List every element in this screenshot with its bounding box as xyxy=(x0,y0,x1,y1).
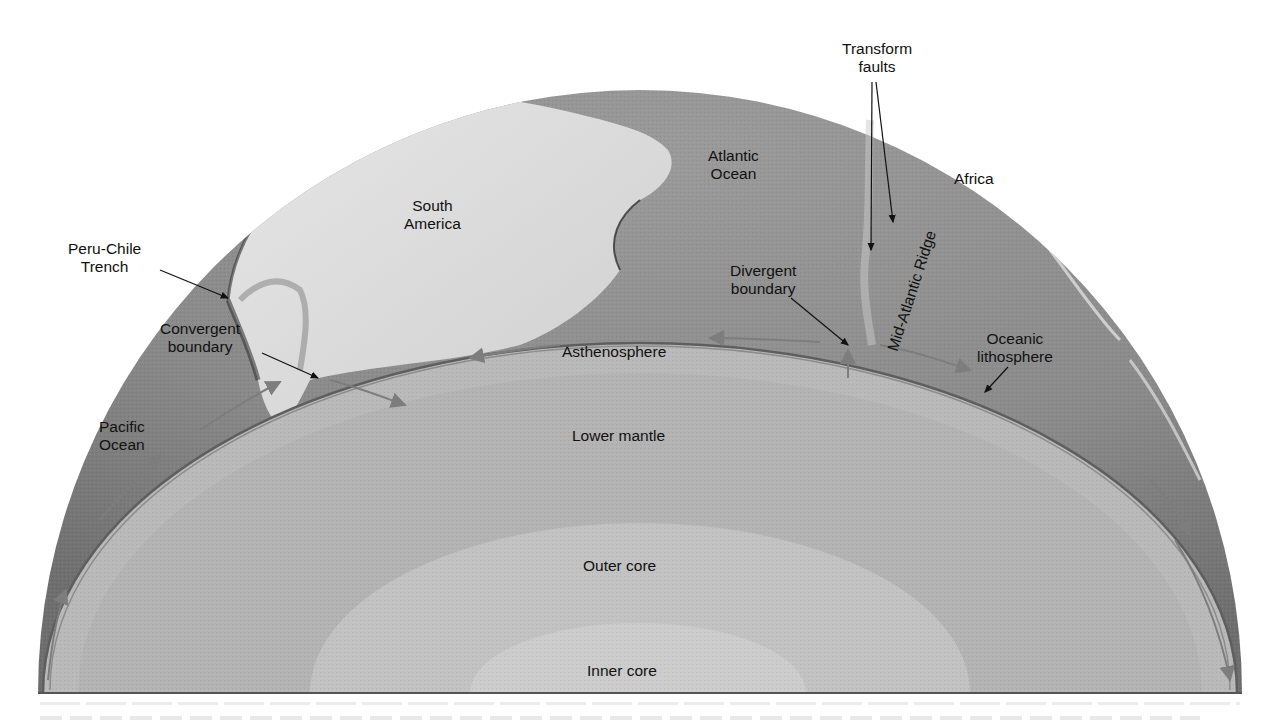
label-line: America xyxy=(404,215,461,233)
label-line: Inner core xyxy=(587,662,657,680)
label-line: Transform xyxy=(842,40,912,58)
label-line: lithosphere xyxy=(977,348,1053,366)
label-south-america: South America xyxy=(404,197,461,233)
label-line: Outer core xyxy=(583,557,656,575)
label-line: Convergent xyxy=(160,320,240,338)
label-africa: Africa xyxy=(954,170,994,188)
earth-diagram-svg xyxy=(0,0,1274,724)
label-lower-mantle: Lower mantle xyxy=(572,427,665,445)
label-line: faults xyxy=(842,58,912,76)
label-line: Asthenosphere xyxy=(562,343,666,361)
label-divergent-boundary: Divergent boundary xyxy=(730,262,796,298)
label-line: Oceanic xyxy=(977,330,1053,348)
label-inner-core: Inner core xyxy=(587,662,657,680)
label-pacific-ocean: Pacific Ocean xyxy=(99,418,145,454)
earth-cross-section-figure: Transform faults Africa Atlantic Ocean S… xyxy=(0,0,1274,724)
label-line: Ocean xyxy=(99,436,145,454)
label-peru-chile-trench: Peru-Chile Trench xyxy=(68,240,141,276)
label-line: Africa xyxy=(954,170,994,188)
label-line: Pacific xyxy=(99,418,145,436)
cropped-caption-remnant xyxy=(40,702,1240,705)
label-line: Divergent xyxy=(730,262,796,280)
label-line: Trench xyxy=(68,258,141,276)
label-convergent-boundary: Convergent boundary xyxy=(160,320,240,356)
cropped-caption-remnant xyxy=(40,716,1200,720)
label-oceanic-lithosphere: Oceanic lithosphere xyxy=(977,330,1053,366)
label-line: Ocean xyxy=(708,165,759,183)
label-line: Atlantic xyxy=(708,147,759,165)
label-asthenosphere: Asthenosphere xyxy=(562,343,666,361)
label-line: Peru-Chile xyxy=(68,240,141,258)
label-line: South xyxy=(404,197,461,215)
label-transform-faults: Transform faults xyxy=(842,40,912,76)
label-line: boundary xyxy=(160,338,240,356)
label-line: Lower mantle xyxy=(572,427,665,445)
label-outer-core: Outer core xyxy=(583,557,656,575)
label-atlantic-ocean: Atlantic Ocean xyxy=(708,147,759,183)
label-line: boundary xyxy=(730,280,796,298)
